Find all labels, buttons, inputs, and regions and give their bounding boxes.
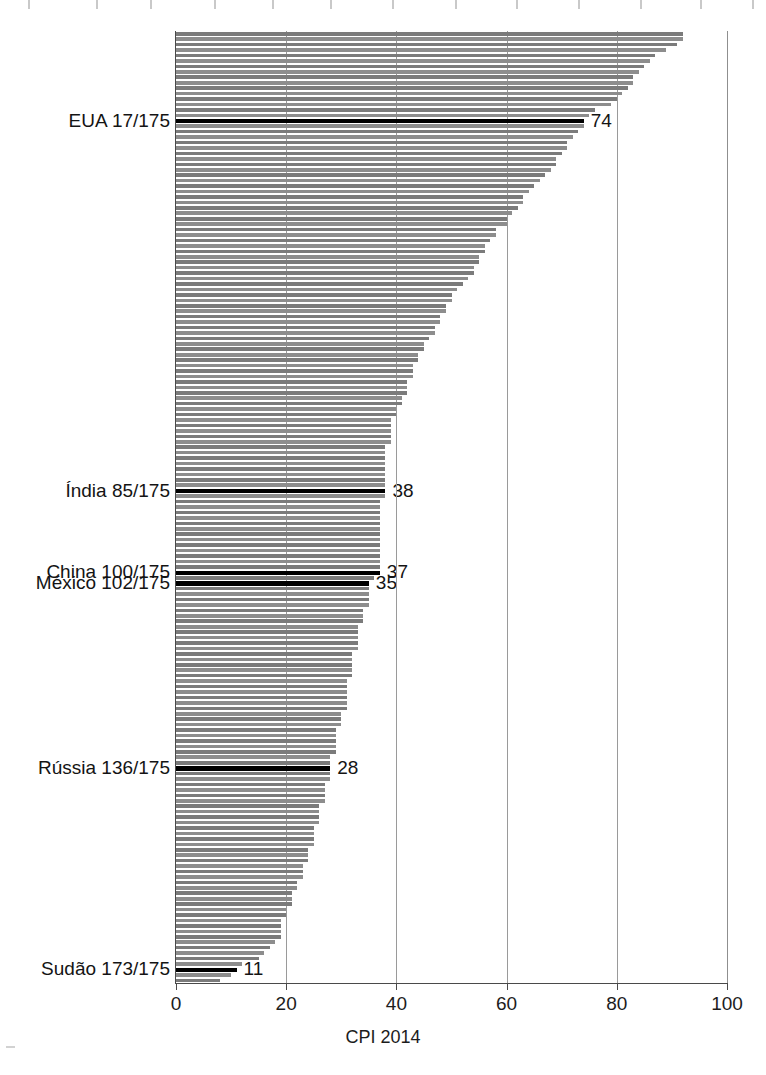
bar — [176, 891, 292, 895]
bar — [176, 163, 556, 167]
bar — [176, 973, 231, 977]
bar — [176, 103, 611, 107]
scan-tick — [516, 0, 518, 9]
bar — [176, 157, 556, 161]
x-tick-label-80: 80 — [606, 993, 627, 1015]
bar — [176, 451, 385, 455]
bar — [176, 598, 369, 602]
bar — [176, 614, 363, 618]
bar — [176, 832, 314, 836]
bar — [176, 930, 281, 934]
bar — [176, 168, 551, 172]
bar — [176, 924, 281, 928]
bar — [176, 130, 578, 134]
bar — [176, 500, 380, 504]
bar — [176, 217, 507, 221]
bar — [176, 853, 308, 857]
bar — [176, 979, 220, 983]
bar — [176, 467, 385, 471]
bar — [176, 843, 314, 847]
bar — [176, 86, 628, 90]
x-tick-20 — [286, 983, 287, 990]
bar — [176, 75, 633, 79]
bar — [176, 358, 418, 362]
scan-tick — [752, 0, 754, 9]
bar — [176, 761, 330, 765]
bar — [176, 532, 380, 536]
bar — [176, 810, 319, 814]
bar — [176, 712, 341, 716]
bar — [176, 407, 396, 411]
scan-tick — [578, 0, 580, 9]
bar — [176, 826, 314, 830]
bar — [176, 184, 534, 188]
bar-highlighted — [176, 489, 385, 493]
bar — [176, 815, 319, 819]
x-axis-line — [176, 983, 728, 984]
bar — [176, 707, 347, 711]
scan-tick — [455, 0, 457, 9]
bar — [176, 587, 369, 591]
bar — [176, 592, 369, 596]
bar — [176, 48, 666, 52]
bar — [176, 717, 341, 721]
scan-tick — [700, 0, 702, 9]
x-tick-label-40: 40 — [386, 993, 407, 1015]
bar — [176, 266, 474, 270]
x-tick-60 — [507, 983, 508, 990]
bar — [176, 750, 336, 754]
plot-area — [176, 31, 727, 983]
bar — [176, 244, 485, 248]
bar — [176, 299, 452, 303]
bar — [176, 859, 308, 863]
bar — [176, 440, 391, 444]
bar — [176, 505, 380, 509]
bar — [176, 739, 336, 743]
bar — [176, 386, 407, 390]
row-label-rank-17: EUA 17/175 — [6, 110, 176, 132]
bar — [176, 625, 358, 629]
scan-tick — [330, 0, 332, 9]
bar — [176, 228, 496, 232]
bar — [176, 478, 385, 482]
bar — [176, 277, 468, 281]
bar — [176, 37, 683, 41]
x-tick-40 — [396, 983, 397, 990]
bar — [176, 543, 380, 547]
bar — [176, 59, 650, 63]
bar-highlighted — [176, 581, 369, 585]
bar — [176, 402, 402, 406]
bar — [176, 658, 352, 662]
bar-highlighted — [176, 968, 237, 972]
bar — [176, 881, 297, 885]
bar — [176, 141, 567, 145]
bar — [176, 342, 424, 346]
bar — [176, 935, 281, 939]
bar — [176, 560, 380, 564]
bar — [176, 522, 380, 526]
bar — [176, 690, 347, 694]
bar — [176, 652, 352, 656]
bar — [176, 641, 358, 645]
bar — [176, 549, 380, 553]
bar — [176, 435, 391, 439]
bar — [176, 554, 380, 558]
bar — [176, 337, 429, 341]
bar — [176, 957, 259, 961]
bar — [176, 239, 490, 243]
bar — [176, 97, 617, 101]
bar — [176, 723, 341, 727]
bar — [176, 32, 683, 36]
bar — [176, 919, 281, 923]
bar — [176, 701, 347, 705]
bar — [176, 538, 380, 542]
bar — [176, 576, 374, 580]
bar — [176, 288, 457, 292]
bar — [176, 315, 440, 319]
bar — [176, 951, 264, 955]
bar — [176, 114, 589, 118]
bar — [176, 353, 418, 357]
row-label-rank-136: Rússia 136/175 — [6, 757, 176, 779]
bar — [176, 755, 330, 759]
bar — [176, 663, 352, 667]
